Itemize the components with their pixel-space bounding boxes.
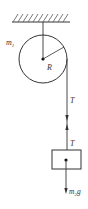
- tension-block-label: T: [70, 139, 75, 148]
- weight-label: m2g: [69, 187, 81, 197]
- tension-arrow-up-icon: [65, 124, 68, 130]
- ceiling: [12, 14, 70, 22]
- pulley-diagram: m1 R T T m2g: [0, 0, 88, 209]
- radius-label: R: [46, 63, 52, 72]
- radius-line: [43, 47, 64, 59]
- pulley-mass-label: m1: [6, 38, 14, 48]
- tension-rope-label: T: [70, 96, 75, 105]
- tension-arrow-down-icon: [65, 115, 68, 121]
- weight-arrow-down-icon: [64, 188, 67, 194]
